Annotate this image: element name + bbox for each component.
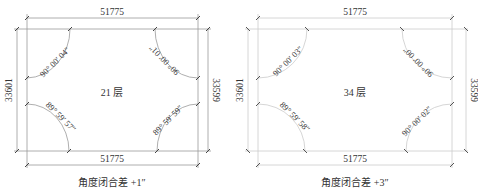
right-dimension-label: 33599 [211, 78, 221, 102]
top-dimension-label: 51775 [343, 7, 367, 17]
arc-bottom-left [258, 104, 305, 151]
caption: 角度闭合差 +1″ [78, 176, 145, 188]
angle-bottom-right: 90° 00′ 02″ [400, 103, 435, 138]
angle-top-right: 90° 00′ 00″ [400, 45, 435, 80]
top-dimension-label: 51775 [100, 7, 124, 17]
left-dimension-label: 33601 [4, 78, 14, 102]
angle-top-left: 90° 00′ 04″ [38, 44, 73, 79]
right-dimension-label: 33599 [469, 78, 478, 102]
floor-label: 21 层 [101, 87, 124, 98]
floor-label: 34 层 [344, 87, 367, 98]
angle-bottom-left: 89° 59′ 58″ [278, 100, 313, 135]
caption: 角度闭合差 +3″ [321, 176, 388, 188]
angle-top-right: 90° 00′ 01″ [146, 43, 181, 78]
angle-bottom-left: 89° 59′ 57″ [44, 100, 79, 135]
angle-top-left: 90° 00′ 03″ [271, 43, 306, 78]
left-dimension-label: 33601 [235, 78, 245, 102]
angle-bottom-right: 89° 59′ 59″ [151, 102, 186, 137]
bottom-dimension-label: 51775 [343, 154, 367, 164]
bottom-dimension-label: 51775 [100, 154, 124, 164]
